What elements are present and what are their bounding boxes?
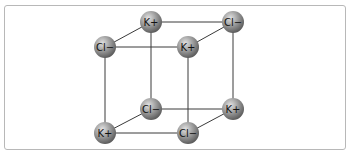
ion-bottom-front-left: K+ [94, 122, 116, 144]
ion-label: K+ [181, 42, 196, 53]
ion-top-front-right: K+ [177, 36, 199, 58]
ion-top-back-right: Cl− [222, 11, 244, 33]
ion-label: K+ [98, 128, 113, 139]
ion-label: Cl− [179, 128, 197, 139]
ion-label: Cl− [224, 17, 242, 28]
ion-top-back-left: K+ [140, 11, 162, 33]
ion-label: Cl− [142, 104, 160, 115]
ion-bottom-front-right: Cl− [177, 122, 199, 144]
ion-label: Cl− [96, 42, 114, 53]
ion-bottom-back-left: Cl− [140, 98, 162, 120]
ion-label: K+ [144, 17, 159, 28]
ion-bottom-back-right: K+ [222, 98, 244, 120]
kcl-lattice-diagram: K+ Cl− Cl− K+ Cl− K+ K+ Cl− [0, 0, 351, 154]
ion-label: K+ [226, 104, 241, 115]
ion-top-front-left: Cl− [94, 36, 116, 58]
